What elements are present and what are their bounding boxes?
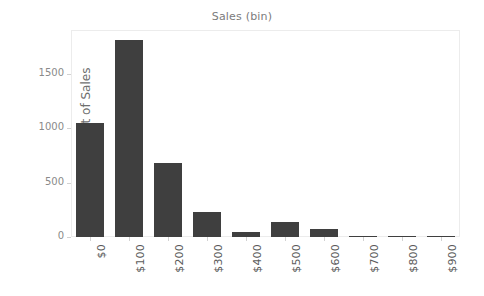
x-tick-label: $400 xyxy=(251,244,264,273)
x-tick-mark xyxy=(441,237,442,241)
y-tick-label: 1000 xyxy=(39,121,64,132)
bar[interactable] xyxy=(193,212,221,237)
x-tick-mark xyxy=(324,237,325,241)
bar[interactable] xyxy=(154,163,182,237)
x-tick-label: $900 xyxy=(446,244,459,273)
x-tick-label: $700 xyxy=(368,244,381,273)
x-tick-mark xyxy=(168,237,169,241)
x-tick-mark xyxy=(207,237,208,241)
bar[interactable] xyxy=(115,40,143,237)
y-tick-label: 0 xyxy=(58,230,64,241)
y-tick-label: 1500 xyxy=(39,67,64,78)
y-tick-mark xyxy=(67,237,71,238)
y-tick-mark xyxy=(67,128,71,129)
plot-area: Count of Sales 050010001500 $0$100$200$3… xyxy=(71,30,460,237)
bar[interactable] xyxy=(310,229,338,237)
x-tick-label: $300 xyxy=(212,244,225,273)
chart-title: Sales (bin) xyxy=(0,10,484,23)
x-tick-mark xyxy=(90,237,91,241)
chart-figure: Sales (bin) Count of Sales 050010001500 … xyxy=(0,0,484,296)
x-tick-mark xyxy=(246,237,247,241)
x-tick-label: $100 xyxy=(134,244,147,273)
x-tick-mark xyxy=(129,237,130,241)
y-tick-mark xyxy=(67,74,71,75)
x-tick-mark xyxy=(363,237,364,241)
bar[interactable] xyxy=(271,222,299,237)
x-tick-label: $0 xyxy=(95,244,108,258)
x-tick-mark xyxy=(285,237,286,241)
x-tick-label: $200 xyxy=(173,244,186,273)
y-tick-mark xyxy=(67,183,71,184)
x-tick-label: $800 xyxy=(407,244,420,273)
x-tick-mark xyxy=(402,237,403,241)
x-tick-label: $500 xyxy=(290,244,303,273)
y-tick-label: 500 xyxy=(45,176,64,187)
x-tick-label: $600 xyxy=(329,244,342,273)
bar[interactable] xyxy=(76,123,104,237)
